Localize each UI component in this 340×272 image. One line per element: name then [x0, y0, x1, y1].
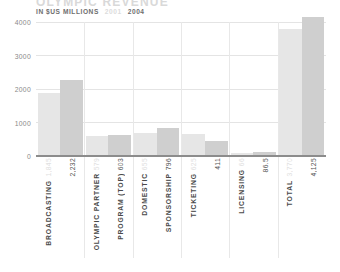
bar-value-label: 2,232 [69, 158, 76, 177]
value-column: 655DOMESTIC [133, 157, 157, 272]
bar-group [278, 22, 326, 155]
legend-item-2004: 2004 [128, 8, 145, 15]
y-axis-tick: 3000 [15, 52, 31, 59]
bar-value-label: 1,845 [45, 158, 52, 177]
bar [134, 133, 157, 155]
bar [38, 93, 61, 155]
value-column: 3,770TOTAL [278, 157, 302, 272]
bar-value-label: 625 [190, 158, 197, 170]
category-axis-label: DOMESTIC [141, 173, 148, 216]
bar-group [229, 22, 277, 155]
value-column: 579OLYMPIC PARTNER [84, 157, 108, 272]
category-axis-label: TICKETING [190, 173, 197, 217]
category-label-group: 655DOMESTIC796SPONSORSHIP [133, 157, 181, 272]
bar [108, 135, 131, 155]
legend-item-2001: 2001 [105, 8, 122, 15]
category-axis-label: TOTAL [286, 180, 293, 206]
category-axis-label: BROADCASTING [45, 180, 52, 246]
value-column: 603PROGRAM (TOP) [109, 157, 133, 272]
olympic-revenue-chart: OLYMPIC REVENUE IN $US MILLIONS 2001 200… [0, 0, 340, 272]
units-label: IN $US MILLIONS [36, 8, 99, 15]
y-axis-tick: 0 [27, 153, 31, 160]
axis-labels-area: 1,845BROADCASTING2,232579OLYMPIC PARTNER… [36, 157, 326, 272]
bar-value-label: 579 [93, 158, 100, 170]
value-column: 1,845BROADCASTING [36, 157, 60, 272]
value-column: 66LICENSING [229, 157, 253, 272]
value-column: 2,232 [60, 157, 84, 272]
bar-groups [36, 22, 326, 155]
value-column: 625TICKETING [181, 157, 205, 272]
bar-value-label: 3,770 [286, 158, 293, 177]
bar-group [84, 22, 132, 155]
category-label-group: 66LICENSING86.5 [229, 157, 277, 272]
bar [205, 141, 228, 155]
category-axis-label: SPONSORSHIP [165, 173, 172, 232]
bar-group [36, 22, 84, 155]
bar-value-label: 655 [141, 158, 148, 170]
value-column: 796SPONSORSHIP [157, 157, 181, 272]
bar [86, 136, 109, 155]
category-axis-label: OLYMPIC PARTNER [93, 173, 100, 250]
bar [279, 29, 302, 155]
value-column: 411 [205, 157, 229, 272]
bar-value-label: 796 [165, 158, 172, 170]
category-separator [229, 157, 230, 258]
bar [60, 80, 83, 155]
bar-value-label: 411 [214, 158, 221, 170]
bar-value-label: 86.5 [262, 158, 269, 172]
bar-value-label: 66 [238, 158, 245, 166]
value-column: 86.5 [253, 157, 277, 272]
category-separator [84, 157, 85, 258]
y-axis-tick: 1000 [15, 119, 31, 126]
category-label-group: 1,845BROADCASTING2,232 [36, 157, 84, 272]
bar [157, 128, 180, 155]
bar-group [133, 22, 181, 155]
plot-area: 01000200030004000 [36, 22, 326, 156]
bar [182, 134, 205, 155]
value-column: 4,125 [302, 157, 326, 272]
category-separator [181, 157, 182, 258]
y-axis-tick: 2000 [15, 86, 31, 93]
bar [302, 17, 325, 155]
category-axis-label: LICENSING [238, 169, 245, 214]
category-separator [278, 157, 279, 258]
category-label-group: 3,770TOTAL4,125 [278, 157, 326, 272]
category-separator [133, 157, 134, 258]
y-axis-tick: 4000 [15, 19, 31, 26]
bar-group [181, 22, 229, 155]
chart-subhead: IN $US MILLIONS 2001 2004 [36, 8, 145, 15]
category-axis-label: PROGRAM (TOP) [117, 173, 124, 240]
category-label-group: 625TICKETING411 [181, 157, 229, 272]
bar-value-label: 603 [117, 158, 124, 170]
bar-value-label: 4,125 [310, 158, 317, 177]
category-label-group: 579OLYMPIC PARTNER603PROGRAM (TOP) [84, 157, 132, 272]
x-axis-line [36, 155, 326, 156]
